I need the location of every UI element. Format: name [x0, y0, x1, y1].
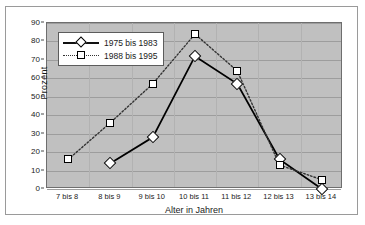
x-tick-label: 13 bis 14: [306, 192, 336, 201]
x-tick-label: 10 bis 11: [179, 192, 209, 201]
square-marker-icon: [77, 51, 85, 59]
x-tick-label: 11 bis 12: [221, 192, 251, 201]
chart-legend: 1975 bis 1983 1988 bis 1995: [58, 32, 164, 66]
legend-label-series-1: 1975 bis 1983: [104, 38, 157, 48]
legend-label-series-2: 1988 bis 1995: [104, 51, 157, 61]
x-tick-label: 12 bis 13: [263, 192, 293, 201]
chart-container: 0102030405060708090 Prozent 7 bis 88 bis…: [0, 0, 365, 225]
x-tick-label: 9 bis 10: [139, 192, 165, 201]
legend-item-series-2: 1988 bis 1995: [63, 49, 157, 62]
diamond-marker-icon: [75, 36, 86, 47]
legend-item-series-1: 1975 bis 1983: [63, 36, 157, 49]
x-axis-label: Alter in Jahren: [46, 205, 342, 215]
legend-sample-dotted-square: [63, 50, 99, 61]
x-axis-ticks: 7 bis 88 bis 99 bis 1010 bis 1111 bis 12…: [0, 0, 365, 225]
x-tick-label: 7 bis 8: [56, 192, 78, 201]
legend-sample-solid-diamond: [63, 37, 99, 48]
x-tick-label: 8 bis 9: [98, 192, 120, 201]
